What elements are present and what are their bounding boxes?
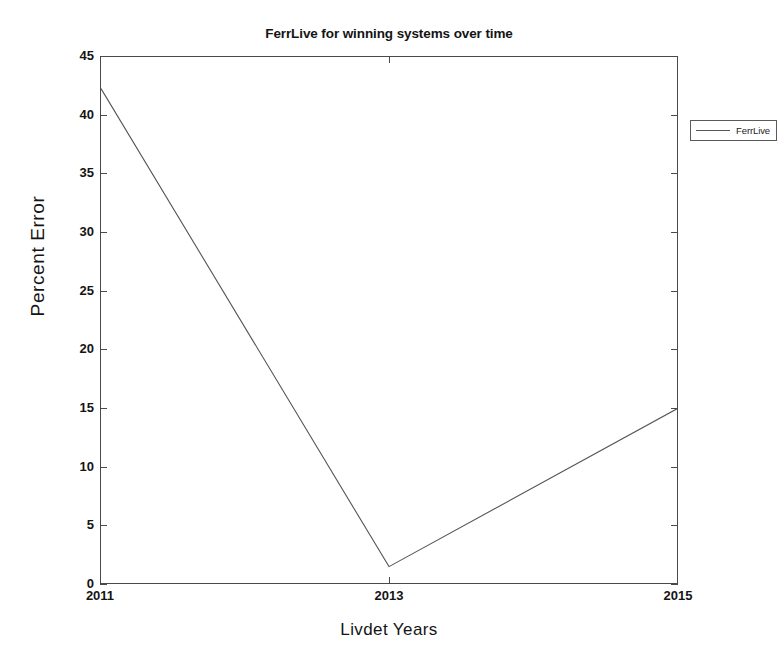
x-axis-label: Livdet Years	[100, 620, 678, 640]
y-tick-mark-right	[671, 232, 678, 233]
x-tick-mark	[389, 577, 390, 584]
legend[interactable]: FerrLive	[690, 120, 777, 141]
y-tick-mark	[100, 584, 107, 585]
y-tick-mark	[100, 291, 107, 292]
legend-label-ferrlive: FerrLive	[736, 125, 770, 136]
y-tick-mark-right	[671, 525, 678, 526]
x-tick-label: 2015	[643, 589, 713, 602]
y-tick-mark	[100, 173, 107, 174]
x-tick-label: 2013	[354, 589, 424, 602]
y-tick-mark-right	[671, 408, 678, 409]
y-tick-mark-right	[671, 56, 678, 57]
y-tick-mark-right	[671, 349, 678, 350]
y-tick-mark	[100, 408, 107, 409]
y-axis-label: Percent Error	[27, 156, 49, 356]
y-tick-mark	[100, 232, 107, 233]
y-tick-mark	[100, 56, 107, 57]
y-tick-label: 20	[54, 342, 94, 355]
y-tick-mark-right	[671, 115, 678, 116]
series-svg	[101, 57, 677, 583]
y-tick-mark-right	[671, 467, 678, 468]
y-tick-mark-right	[671, 291, 678, 292]
y-tick-label: 10	[54, 460, 94, 473]
y-tick-label: 5	[54, 518, 94, 531]
y-tick-mark-right	[671, 173, 678, 174]
y-tick-label: 30	[54, 225, 94, 238]
chart-title: FerrLive for winning systems over time	[100, 26, 678, 41]
x-tick-mark-top	[389, 56, 390, 63]
y-tick-mark	[100, 467, 107, 468]
line-series-ferrlive	[101, 89, 677, 567]
y-tick-label: 35	[54, 166, 94, 179]
plot-box: FerrLive	[100, 56, 678, 584]
plot-area	[101, 57, 677, 583]
y-tick-label: 25	[54, 284, 94, 297]
y-tick-mark	[100, 115, 107, 116]
y-tick-mark	[100, 349, 107, 350]
legend-line-sample	[696, 130, 730, 131]
y-tick-mark	[100, 525, 107, 526]
y-tick-label: 40	[54, 108, 94, 121]
y-tick-label: 45	[54, 49, 94, 62]
y-tick-label: 15	[54, 401, 94, 414]
x-tick-label: 2011	[65, 589, 135, 602]
y-tick-mark-right	[671, 584, 678, 585]
